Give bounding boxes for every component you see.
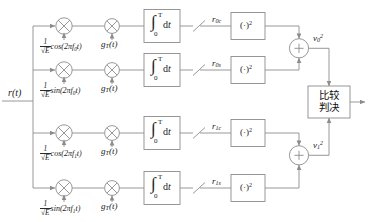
- pulse-label-0c: gT(t): [101, 40, 117, 49]
- integral-sign-0s: ∫: [151, 57, 156, 74]
- integral-sign-0c: ∫: [151, 13, 156, 30]
- wire-summer0-to-decision: [309, 48, 329, 86]
- wire-square-to-summer-1s: [265, 165, 299, 188]
- square-label-0s: (·)2: [240, 64, 252, 74]
- summer-1-output-label: v12: [313, 140, 323, 150]
- pulse-label-0s: gT(t): [101, 84, 117, 93]
- integral-upper-1s: T: [158, 174, 162, 181]
- integral-sign-1s: ∫: [151, 175, 156, 192]
- integral-lower-0s: 0: [154, 75, 158, 82]
- carrier-label-0s: 1√Esin(2πf0t): [40, 82, 80, 98]
- signal-label-r0c: r0c: [212, 15, 221, 24]
- integral-upper-1c: T: [158, 119, 162, 126]
- signal-label-r0s: r0s: [212, 59, 221, 68]
- integral-operand-0s: dt: [163, 64, 171, 74]
- pulse-label-1s: gT(t): [101, 202, 117, 211]
- carrier-label-0c: 1√Ecos(2πf0t): [40, 38, 82, 54]
- integral-operand-1s: dt: [163, 182, 171, 192]
- integral-sign-1c: ∫: [151, 120, 156, 137]
- summer-0-output-label: v02: [313, 33, 323, 43]
- carrier-label-1s: 1√Esin(2πf1t): [40, 200, 80, 216]
- decision-label-line1: 比较: [308, 90, 350, 102]
- square-label-1s: (·)2: [240, 182, 252, 192]
- integral-lower-0c: 0: [154, 31, 158, 38]
- signal-label-r1c: r1c: [212, 122, 221, 131]
- integral-lower-1s: 0: [154, 193, 158, 200]
- input-label: r(t): [8, 88, 21, 98]
- pulse-label-1c: gT(t): [101, 147, 117, 156]
- integral-lower-1c: 0: [154, 138, 158, 145]
- integral-upper-0c: T: [158, 12, 162, 19]
- decision-block-label: 比较 判决: [308, 90, 350, 114]
- wire-square-to-summer-1c: [265, 133, 299, 146]
- carrier-label-1c: 1√Ecos(2πf1t): [40, 145, 82, 161]
- wire-square-to-summer-0s: [265, 58, 299, 70]
- integral-upper-0s: T: [158, 56, 162, 63]
- integral-operand-1c: dt: [163, 127, 171, 137]
- square-label-1c: (·)2: [240, 127, 252, 137]
- square-label-0c: (·)2: [240, 20, 252, 30]
- signal-label-r1s: r1s: [212, 177, 221, 186]
- decision-label-line2: 判决: [308, 102, 350, 114]
- wire-square-to-summer-0c: [265, 26, 299, 39]
- integral-operand-0c: dt: [163, 20, 171, 30]
